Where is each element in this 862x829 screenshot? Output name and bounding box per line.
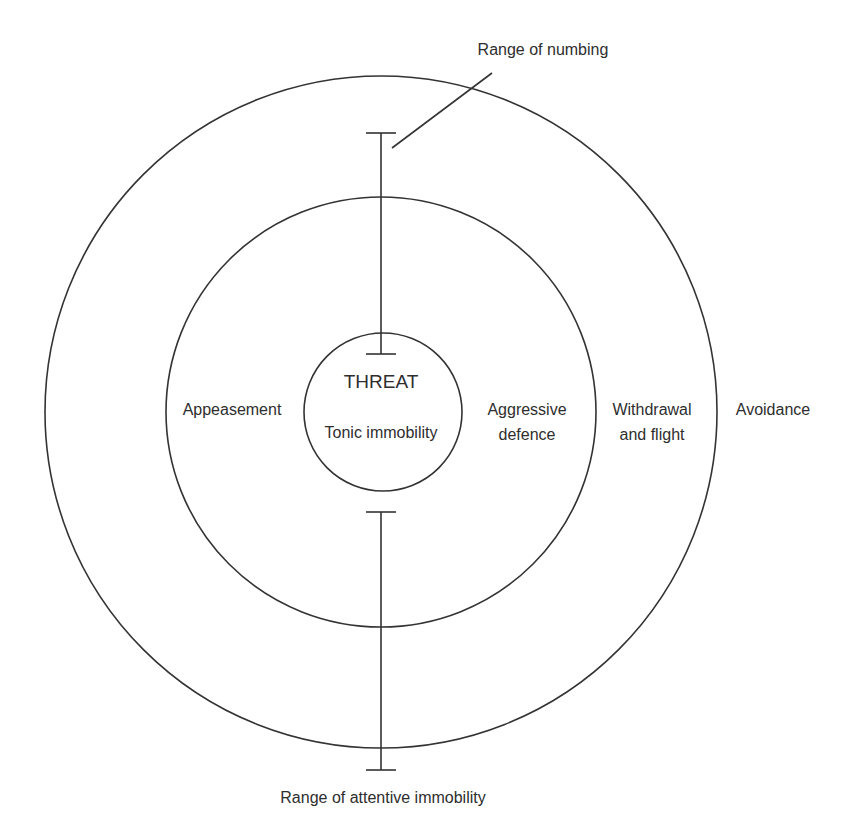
range-of-numbing-bar [366, 133, 396, 354]
aggressive-defence-label-line1: Aggressive [487, 401, 566, 418]
appeasement-label: Appeasement [183, 401, 282, 418]
withdrawal-flight-label-line2: and flight [620, 426, 685, 443]
threat-title: THREAT [344, 371, 419, 392]
inner-threat-circle [304, 333, 462, 491]
range-of-numbing-label: Range of numbing [478, 41, 609, 58]
threat-response-diagram: Range of numbing THREAT Tonic immobility… [0, 0, 862, 829]
withdrawal-flight-label-line1: Withdrawal [612, 401, 691, 418]
range-of-attentive-immobility-bar [366, 512, 396, 770]
numbing-leader-line [392, 73, 492, 148]
aggressive-defence-label-line2: defence [499, 426, 556, 443]
range-of-attentive-immobility-label: Range of attentive immobility [280, 789, 485, 806]
avoidance-label: Avoidance [736, 401, 811, 418]
tonic-immobility-label: Tonic immobility [325, 424, 438, 441]
